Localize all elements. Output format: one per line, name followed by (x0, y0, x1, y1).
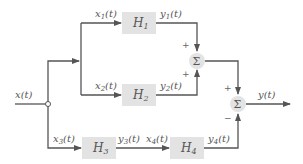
x2-label: x2(t) (95, 80, 117, 93)
upper-feed-wire (48, 61, 79, 102)
summer-1-sign-top: + (182, 40, 190, 50)
y4-label: y4(t) (207, 133, 230, 146)
summer-2-sign-top: + (224, 83, 232, 93)
summer-2-symbol: Σ (234, 98, 242, 111)
sum1-out-wire (205, 61, 238, 94)
y3-label: y3(t) (117, 133, 140, 146)
y1-label: y1(t) (159, 8, 182, 21)
block-diagram: x(t) x1(t) x2(t) H1 H2 y1(t) y2(t) Σ + +… (0, 0, 303, 164)
y2-label: y2(t) (159, 80, 182, 93)
input-label: x(t) (15, 89, 33, 100)
y1-wire (156, 23, 197, 51)
summer-2-sign-bottom: − (224, 113, 232, 123)
x3-label: x3(t) (53, 133, 75, 146)
x1-label: x1(t) (95, 8, 117, 21)
summer-1-sign-bottom: + (182, 69, 190, 79)
output-label: y(t) (257, 89, 276, 100)
summer-1-symbol: Σ (193, 55, 201, 68)
x4-label: x4(t) (146, 133, 168, 146)
junction-node (46, 102, 51, 107)
